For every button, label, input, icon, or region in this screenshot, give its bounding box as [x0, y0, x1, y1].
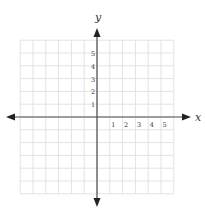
y-tick-label: 1: [91, 101, 95, 109]
y-axis-up-arrow-icon: [94, 28, 101, 37]
y-axis-label: y: [94, 11, 102, 24]
x-axis-right-arrow-icon: [182, 114, 191, 121]
x-axis-label: x: [195, 111, 202, 124]
y-tick-label: 2: [91, 88, 95, 96]
y-tick-labels: 12345: [91, 50, 95, 109]
x-tick-label: 5: [163, 121, 167, 129]
x-tick-label: 2: [124, 121, 128, 129]
y-tick-label: 4: [91, 63, 95, 71]
x-tick-label: 1: [111, 121, 115, 129]
x-tick-labels: 12345: [111, 121, 166, 129]
x-axis: [6, 114, 191, 121]
x-axis-left-arrow-icon: [6, 114, 15, 121]
y-axis-down-arrow-icon: [94, 198, 101, 207]
y-tick-label: 5: [91, 50, 95, 58]
x-tick-label: 3: [137, 121, 141, 129]
x-tick-label: 4: [150, 121, 154, 129]
y-tick-label: 3: [91, 76, 95, 84]
coordinate-plane: 12345 12345 x y: [0, 0, 205, 221]
